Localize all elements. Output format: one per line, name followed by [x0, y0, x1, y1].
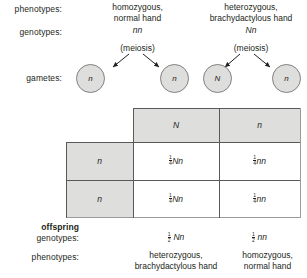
punnett-row-header-1-label: n — [97, 194, 102, 204]
grid-line-left — [66, 142, 67, 218]
grid-line-h2 — [66, 180, 300, 181]
grid-line-top — [133, 108, 300, 109]
punnett-cell-0-0: 1 4 Nn — [133, 142, 219, 180]
offspring-phenotype-0-line2: brachydactylous hand — [127, 261, 225, 272]
offspring-phenotype-1-line1: homozygous, — [228, 250, 307, 261]
offspring-genotype-1: 1 2 nn — [219, 232, 300, 243]
punnett-cell-1-1-genotype: nn — [256, 194, 265, 204]
grid-line-right — [300, 108, 301, 218]
offspring-genotype-1-value: nn — [258, 232, 267, 242]
offspring-phenotype-0: heterozygous, brachydactylous hand — [127, 250, 225, 271]
punnett-row-header-0-label: n — [97, 156, 102, 166]
punnett-cell-0-0-fraction: 1 4 — [169, 155, 172, 166]
offspring-genotype-1-fraction: 1 2 — [252, 232, 255, 243]
grid-line-v2 — [219, 108, 220, 218]
punnett-row-header-1: n — [66, 180, 133, 218]
punnett-cell-0-1: 1 4 nn — [219, 142, 300, 180]
punnett-cell-0-0-genotype: Nn — [172, 156, 183, 166]
offspring-phenotype-1-line2: normal hand — [228, 261, 307, 272]
offspring-phenotype-1: homozygous, normal hand — [228, 250, 307, 271]
punnett-col-header-0-label: N — [173, 120, 179, 130]
punnett-cell-1-0: 1 4 Nn — [133, 180, 219, 218]
punnett-cell-1-1-fraction: 1 4 — [253, 193, 256, 204]
punnett-cell-1-1: 1 4 nn — [219, 180, 300, 218]
punnett-col-header-1: n — [219, 108, 300, 142]
grid-line-v1 — [133, 108, 134, 218]
grid-line-h1 — [66, 142, 300, 143]
punnett-row-header-0: n — [66, 142, 133, 180]
punnett-cell-1-0-fraction: 1 4 — [169, 193, 172, 204]
punnett-cell-0-1-fraction: 1 4 — [253, 155, 256, 166]
punnett-col-header-0: N — [133, 108, 219, 142]
punnett-square-diagram: phenotypes: genotypes: gametes: offsprin… — [0, 0, 307, 278]
offspring-genotype-0-value: Nn — [173, 232, 184, 242]
punnett-cell-0-1-genotype: nn — [256, 156, 265, 166]
punnett-col-header-1-label: n — [257, 120, 262, 130]
offspring-phenotype-0-line1: heterozygous, — [127, 250, 225, 261]
grid-line-bottom — [66, 217, 300, 218]
offspring-genotype-0: 1 2 Nn — [133, 232, 219, 243]
offspring-genotype-0-fraction: 1 2 — [168, 232, 171, 243]
punnett-cell-1-0-genotype: Nn — [172, 194, 183, 204]
